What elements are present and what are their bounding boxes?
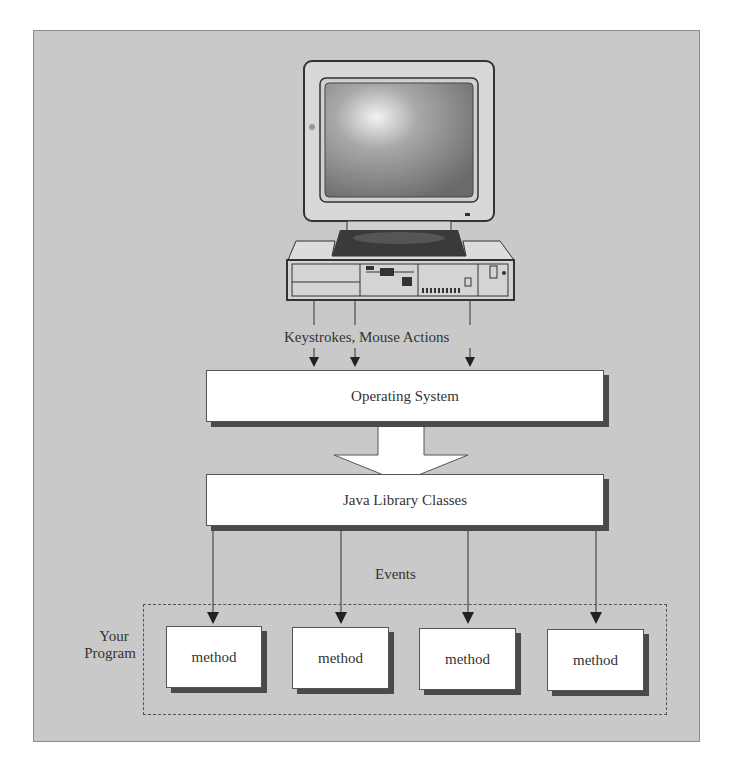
operating-system-label: Operating System <box>351 388 459 405</box>
java-library-classes-box: Java Library Classes <box>206 474 604 526</box>
events-label: Events <box>375 566 416 583</box>
method-box: method <box>419 628 516 690</box>
method-label: method <box>445 651 490 668</box>
your-program-label-line1: Your <box>88 628 140 645</box>
method-label: method <box>573 652 618 669</box>
your-program-label: Your Program <box>88 628 140 662</box>
operating-system-box: Operating System <box>206 370 604 422</box>
your-program-label-line2: Program <box>80 645 140 662</box>
method-box: method <box>166 626 262 688</box>
input-label: Keystrokes, Mouse Actions <box>284 329 449 346</box>
method-label: method <box>192 649 237 666</box>
java-library-classes-label: Java Library Classes <box>343 492 467 509</box>
method-label: method <box>318 650 363 667</box>
method-box: method <box>292 627 389 689</box>
method-box: method <box>547 629 644 691</box>
